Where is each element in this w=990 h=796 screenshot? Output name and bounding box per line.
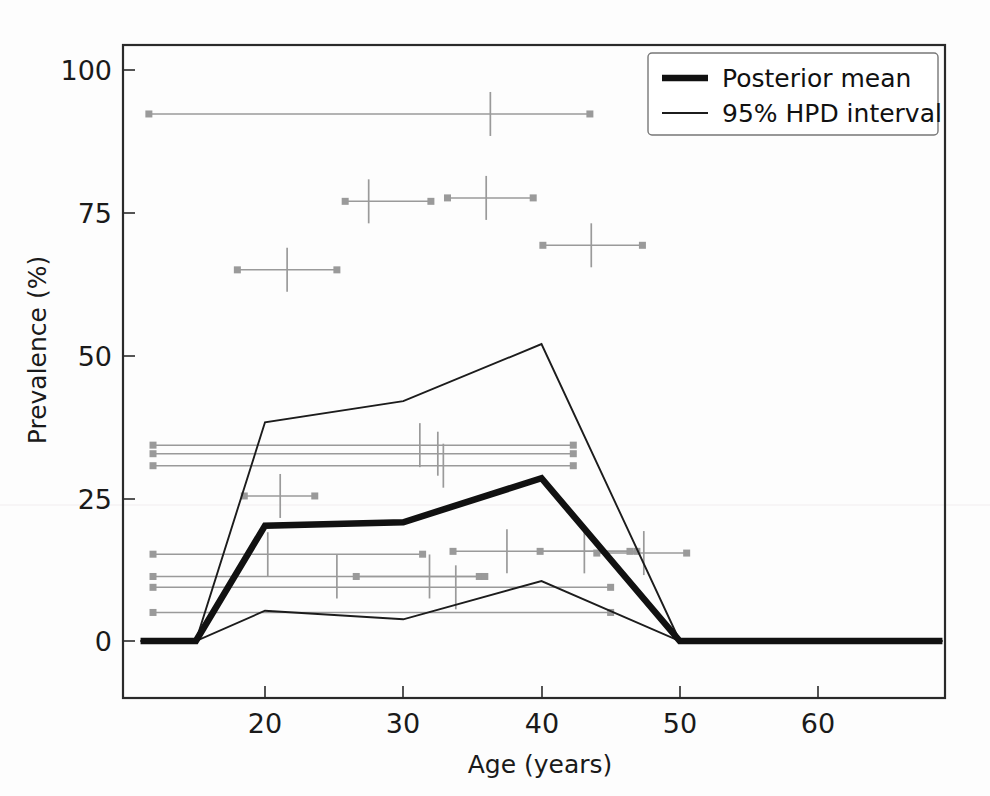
observation-interval	[241, 474, 319, 518]
y-tick-50: 50	[78, 341, 135, 372]
observation-cap-left	[450, 548, 457, 555]
legend-label-hpd-interval: 95% HPD interval	[722, 99, 942, 128]
observation-intervals	[145, 92, 690, 616]
y-tick-label-75: 75	[78, 198, 112, 229]
y-axis-title: Prevalence (%)	[23, 256, 52, 444]
figure-canvas: 100 75 50 25 0 Prevalence (%)	[0, 0, 990, 796]
observation-cap-left	[150, 584, 157, 591]
posterior-mean-curve	[141, 478, 943, 641]
y-axis: 100 75 50 25 0 Prevalence (%)	[23, 55, 135, 657]
observation-interval	[444, 176, 537, 220]
y-tick-0: 0	[95, 626, 135, 657]
legend: Posterior mean 95% HPD interval	[648, 53, 942, 135]
observation-interval	[353, 554, 489, 598]
x-tick-label-30: 30	[386, 708, 420, 739]
observation-interval	[150, 444, 577, 488]
observation-interval	[539, 223, 646, 267]
x-tick-20: 20	[248, 686, 282, 739]
x-tick-40: 40	[525, 686, 559, 739]
observation-cap-right	[427, 198, 434, 205]
x-tick-50: 50	[663, 686, 697, 739]
observation-cap-left	[150, 442, 157, 449]
observation-interval	[150, 423, 577, 467]
plot-frame	[123, 45, 945, 698]
y-tick-label-50: 50	[78, 341, 112, 372]
x-tick-label-40: 40	[525, 708, 559, 739]
observation-cap-right	[570, 442, 577, 449]
y-tick-25: 25	[78, 484, 135, 515]
observation-cap-left	[342, 198, 349, 205]
x-tick-label-20: 20	[248, 708, 282, 739]
observation-interval	[150, 609, 615, 616]
legend-label-posterior-mean: Posterior mean	[722, 64, 911, 93]
observation-cap-left	[150, 609, 157, 616]
x-tick-label-60: 60	[801, 708, 835, 739]
hpd-bound-curve	[141, 344, 943, 641]
model-curves	[141, 344, 943, 641]
x-tick-60: 60	[801, 686, 835, 739]
observation-cap-right	[639, 242, 646, 249]
observation-cap-left	[539, 242, 546, 249]
x-tick-label-50: 50	[663, 708, 697, 739]
observation-cap-right	[481, 573, 488, 580]
observation-cap-left	[150, 462, 157, 469]
observation-cap-left	[150, 551, 157, 558]
observation-cap-left	[444, 194, 451, 201]
observation-cap-left	[234, 266, 241, 273]
observation-cap-right	[586, 110, 593, 117]
observation-cap-right	[570, 462, 577, 469]
x-tick-30: 30	[386, 686, 420, 739]
observation-cap-right	[333, 266, 340, 273]
observation-cap-left	[150, 573, 157, 580]
observation-interval	[150, 532, 427, 576]
y-tick-label-100: 100	[60, 55, 112, 86]
observation-interval	[145, 92, 593, 136]
observation-cap-right	[607, 584, 614, 591]
hpd-bound-curve	[141, 581, 943, 641]
observation-interval	[150, 432, 577, 476]
observation-cap-right	[570, 450, 577, 457]
observation-cap-left	[353, 573, 360, 580]
observation-cap-left	[537, 548, 544, 555]
observation-cap-right	[530, 194, 537, 201]
observation-cap-right	[419, 551, 426, 558]
observation-cap-left	[145, 110, 152, 117]
observation-cap-left	[150, 450, 157, 457]
y-tick-label-0: 0	[95, 626, 112, 657]
x-axis-title: Age (years)	[468, 750, 613, 779]
y-tick-label-25: 25	[78, 484, 112, 515]
observation-interval	[342, 179, 435, 223]
observation-cap-right	[683, 550, 690, 557]
observation-interval	[234, 248, 341, 292]
y-tick-75: 75	[78, 198, 135, 229]
prevalence-by-age-chart: 100 75 50 25 0 Prevalence (%)	[0, 0, 990, 796]
x-axis: 20 30 40 50 60 Age (years)	[248, 686, 835, 779]
observation-cap-right	[311, 492, 318, 499]
